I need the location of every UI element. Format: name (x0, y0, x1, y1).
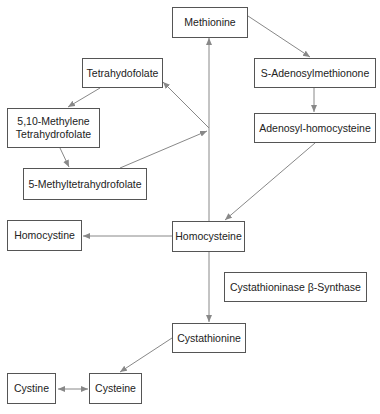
node-cysteine: Cysteine (89, 373, 142, 404)
node-homocysteine: Homocysteine (172, 221, 245, 252)
node-methionine: Methionine (172, 7, 248, 38)
node-label: Homocysteine (175, 230, 242, 243)
node-label: Cystathioninase β-Synthase (230, 281, 361, 294)
node-label: Homocystine (14, 229, 75, 242)
node-label: Tetrahydofolate (87, 67, 159, 80)
node-s-adenosylmethionone: S-Adenosylmethionone (254, 58, 376, 88)
node-enzyme-cystathioninase: Cystathioninase β-Synthase (224, 272, 367, 302)
node-adenosyl-homocysteine: Adenosyl-homocysteine (254, 113, 376, 143)
node-tetrahydofolate: Tetrahydofolate (82, 58, 163, 88)
node-label-line2: Tetrahydrofolate (16, 128, 91, 141)
node-homocystine: Homocystine (7, 220, 82, 251)
node-label: Cystathionine (177, 332, 241, 345)
edge-junction-thf (163, 82, 209, 128)
node-methyltetrahydrofolate: 5-Methyltetrahydrofolate (23, 168, 147, 200)
node-label: 5-Methyltetrahydrofolate (28, 178, 141, 191)
node-cystine: Cystine (7, 373, 56, 404)
edge-cystathionine-cysteine (120, 338, 172, 372)
edge-mthf-junction (120, 131, 207, 168)
edge-methionine-sam (248, 16, 310, 57)
node-cystathionine: Cystathionine (172, 323, 246, 353)
edge-methylene-mthf (60, 148, 69, 167)
edge-thf-methylene (68, 88, 100, 107)
edge-sah-homocysteine (225, 143, 315, 220)
node-label: Methionine (184, 16, 235, 29)
node-label: Cystine (14, 382, 49, 395)
node-label-line1: 5,10-Methylene (17, 115, 89, 128)
node-label: S-Adenosylmethionone (261, 67, 370, 80)
node-label: Cysteine (95, 382, 136, 395)
node-methylene-tetrahydrofolate: 5,10-Methylene Tetrahydrofolate (7, 108, 100, 148)
node-label: Adenosyl-homocysteine (259, 122, 370, 135)
